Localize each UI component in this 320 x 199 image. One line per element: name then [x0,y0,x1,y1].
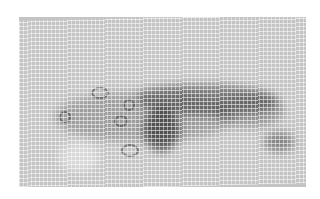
gauze-photo [19,17,306,187]
mesh-texture [19,17,306,187]
